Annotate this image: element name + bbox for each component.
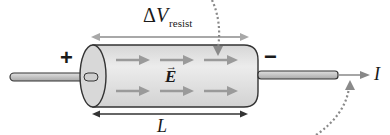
dotted-pointer-bottom (316, 80, 355, 135)
length-arrow (92, 111, 248, 118)
current-arrow (338, 71, 370, 79)
voltage-symbol: V (156, 4, 168, 26)
current-label: I (374, 65, 380, 83)
vector-arrow-icon: → (166, 61, 177, 72)
right-wire (258, 71, 338, 79)
resistor-diagram: ΔVresist →E L I + − (0, 0, 390, 135)
voltage-subscript: resist (169, 17, 192, 29)
diagram-canvas (0, 0, 390, 135)
length-label: L (157, 117, 167, 135)
negative-terminal-sign: − (264, 46, 277, 68)
delta-symbol: Δ (143, 4, 156, 26)
positive-terminal-sign: + (60, 47, 73, 69)
potential-difference-arrow (91, 33, 249, 41)
potential-difference-label: ΔVresist (143, 5, 192, 29)
electric-field-label: →E (165, 68, 176, 85)
